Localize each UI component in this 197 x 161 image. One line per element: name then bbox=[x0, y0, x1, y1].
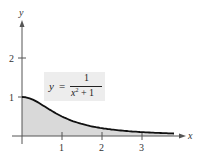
equation-denominator: x2 + 1 bbox=[71, 87, 94, 98]
y-tick-label-2: 2 bbox=[9, 53, 14, 64]
denominator-rest: + 1 bbox=[78, 87, 94, 98]
x-tick-label-3: 3 bbox=[139, 142, 144, 153]
equation-numerator: 1 bbox=[84, 72, 89, 83]
shaded-area bbox=[22, 97, 174, 136]
equation-equals: = bbox=[59, 80, 65, 92]
x-tick-label-2: 2 bbox=[99, 142, 104, 153]
equation-label: y = 1 x2 + 1 bbox=[44, 72, 105, 101]
equation-lhs: y bbox=[49, 80, 54, 92]
x-tick-label-1: 1 bbox=[59, 142, 64, 153]
x-axis-arrow-icon bbox=[179, 134, 186, 139]
y-axis-arrow-icon bbox=[20, 20, 25, 27]
y-axis-label: y bbox=[18, 7, 24, 18]
y-tick-label-1: 1 bbox=[9, 92, 14, 103]
x-axis-label: x bbox=[187, 130, 193, 141]
